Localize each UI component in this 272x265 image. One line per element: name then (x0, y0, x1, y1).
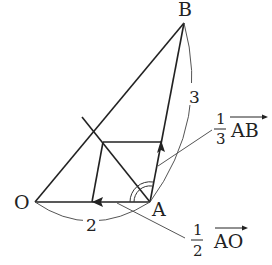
length-arc-AB (150, 23, 192, 202)
leader-AO (117, 203, 185, 238)
frac-ab-denominator: 3 (216, 130, 226, 148)
frac-ao-denominator: 2 (193, 242, 203, 260)
label-length-AB: 3 (189, 87, 200, 107)
label-point-O: O (14, 191, 30, 213)
label-point-B: B (178, 0, 192, 20)
frac-ao-numerator: 1 (193, 221, 203, 239)
segment-OB (35, 23, 184, 202)
vector-name-AO: AO (213, 230, 243, 252)
vector-diagram: B O A 2 3 1 3 AB 1 2 AO (0, 0, 272, 265)
parallelogram-side-left (92, 142, 103, 202)
label-length-OA: 2 (86, 215, 97, 235)
label-point-A: A (151, 198, 166, 220)
frac-ab-numerator: 1 (216, 110, 226, 128)
vector-arrowhead-ab-icon (262, 115, 268, 120)
vector-name-AB: AB (230, 119, 259, 141)
leader-AB (158, 130, 212, 166)
